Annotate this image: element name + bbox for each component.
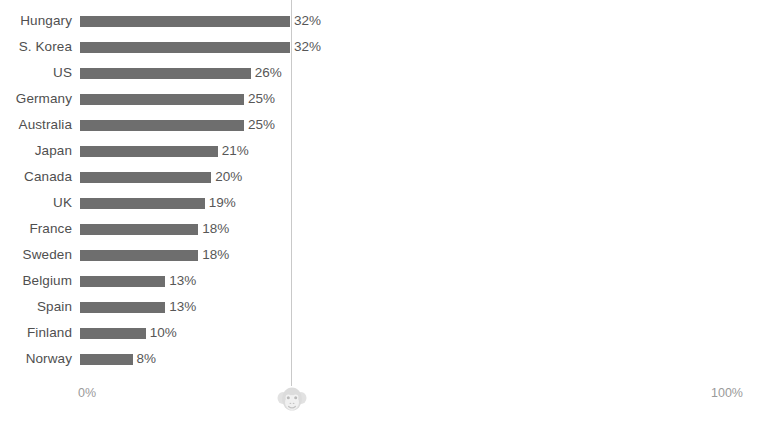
bar-row: Belgium13%	[0, 268, 758, 294]
x-axis-tick-0: 0%	[78, 386, 96, 400]
bar-row: Canada20%	[0, 164, 758, 190]
bar-category-label: Germany	[0, 86, 72, 112]
bar-and-value: 20%	[80, 164, 242, 190]
bar-row: Japan21%	[0, 138, 758, 164]
bar-and-value: 32%	[80, 34, 321, 60]
bar-category-label: Spain	[0, 294, 72, 320]
bar	[80, 224, 198, 235]
bar	[80, 198, 205, 209]
bar	[80, 328, 146, 339]
bar	[80, 16, 290, 27]
bar-row: Germany25%	[0, 86, 758, 112]
bar-value-label: 25%	[248, 112, 275, 138]
bar-category-label: Canada	[0, 164, 72, 190]
bar-value-label: 32%	[294, 8, 321, 34]
bar-category-label: S. Korea	[0, 34, 72, 60]
bar-value-label: 25%	[248, 86, 275, 112]
bar-row: France18%	[0, 216, 758, 242]
bar-and-value: 25%	[80, 86, 275, 112]
bar-row: Norway8%	[0, 346, 758, 372]
bar-category-label: Japan	[0, 138, 72, 164]
bar-row: UK19%	[0, 190, 758, 216]
bar	[80, 250, 198, 261]
bar-row: Sweden18%	[0, 242, 758, 268]
bar-value-label: 19%	[209, 190, 236, 216]
bar-category-label: France	[0, 216, 72, 242]
bar-value-label: 32%	[294, 34, 321, 60]
bar-value-label: 13%	[169, 268, 196, 294]
bar-row: Finland10%	[0, 320, 758, 346]
bar-value-label: 10%	[150, 320, 177, 346]
bar	[80, 120, 244, 131]
bar	[80, 94, 244, 105]
bar-and-value: 10%	[80, 320, 177, 346]
bar-row: S. Korea32%	[0, 34, 758, 60]
bar-category-label: Norway	[0, 346, 72, 372]
bar-row: Hungary32%	[0, 8, 758, 34]
bar-value-label: 8%	[137, 346, 157, 372]
bar-and-value: 13%	[80, 294, 196, 320]
bar-value-label: 26%	[255, 60, 282, 86]
bar	[80, 172, 211, 183]
bar-and-value: 18%	[80, 216, 229, 242]
bar	[80, 354, 133, 365]
bar-and-value: 18%	[80, 242, 229, 268]
bar	[80, 42, 290, 53]
bar-row: Spain13%	[0, 294, 758, 320]
bar	[80, 146, 218, 157]
bar-category-label: US	[0, 60, 72, 86]
bar-category-label: Finland	[0, 320, 72, 346]
bar-and-value: 26%	[80, 60, 282, 86]
bar-value-label: 21%	[222, 138, 249, 164]
bar-and-value: 25%	[80, 112, 275, 138]
bar-category-label: Australia	[0, 112, 72, 138]
bar-value-label: 13%	[169, 294, 196, 320]
bar-category-label: Hungary	[0, 8, 72, 34]
bar-and-value: 13%	[80, 268, 196, 294]
bar-category-label: Sweden	[0, 242, 72, 268]
bar-and-value: 32%	[80, 8, 321, 34]
bar-value-label: 18%	[202, 216, 229, 242]
bar-category-label: UK	[0, 190, 72, 216]
x-axis-tick-100: 100%	[711, 386, 743, 400]
bar-category-label: Belgium	[0, 268, 72, 294]
chart-plot-area: Hungary32%S. Korea32%US26%Germany25%Aust…	[0, 8, 758, 372]
bar-chart: Hungary32%S. Korea32%US26%Germany25%Aust…	[0, 0, 758, 426]
bar-and-value: 21%	[80, 138, 249, 164]
bar-and-value: 19%	[80, 190, 236, 216]
x-axis: 0% 100%	[0, 386, 758, 410]
monkey-face-icon	[276, 384, 308, 414]
bar-and-value: 8%	[80, 346, 156, 372]
bar	[80, 68, 251, 79]
bar	[80, 302, 165, 313]
bar-row: US26%	[0, 60, 758, 86]
bar-value-label: 20%	[215, 164, 242, 190]
bar-row: Australia25%	[0, 112, 758, 138]
bar	[80, 276, 165, 287]
bar-value-label: 18%	[202, 242, 229, 268]
